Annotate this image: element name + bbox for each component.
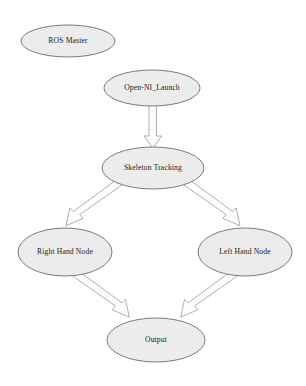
arrow-skeleton-to-left-hand xyxy=(184,180,240,226)
node-skeleton-tracking[interactable]: Skeleton Tracking xyxy=(102,147,204,189)
arrow-launch-to-skeleton xyxy=(144,106,162,149)
node-layer: ROS Master Open-NI_Launch Skeleton Track… xyxy=(18,25,292,362)
diagram-canvas: ROS Master Open-NI_Launch Skeleton Track… xyxy=(0,0,306,386)
node-label-right-hand-node: Right Hand Node xyxy=(37,247,93,256)
node-label-skeleton-tracking: Skeleton Tracking xyxy=(124,163,182,172)
arrow-right-hand-to-output xyxy=(73,271,129,317)
node-output[interactable]: Output xyxy=(107,318,205,362)
node-label-left-hand-node: Left Hand Node xyxy=(219,247,271,256)
node-open-ni-launch[interactable]: Open-NI_Launch xyxy=(104,70,200,106)
arrow-skeleton-to-right-hand xyxy=(66,180,122,226)
node-label-open-ni-launch: Open-NI_Launch xyxy=(124,83,180,92)
node-label-ros-master: ROS Master xyxy=(48,36,88,45)
node-ros-master[interactable]: ROS Master xyxy=(21,25,115,57)
node-flow-diagram: ROS Master Open-NI_Launch Skeleton Track… xyxy=(0,0,306,386)
node-label-output: Output xyxy=(145,335,168,344)
node-right-hand-node[interactable]: Right Hand Node xyxy=(18,228,112,276)
connector-layer xyxy=(66,106,240,318)
arrow-left-hand-to-output xyxy=(181,271,237,317)
node-left-hand-node[interactable]: Left Hand Node xyxy=(198,228,292,276)
